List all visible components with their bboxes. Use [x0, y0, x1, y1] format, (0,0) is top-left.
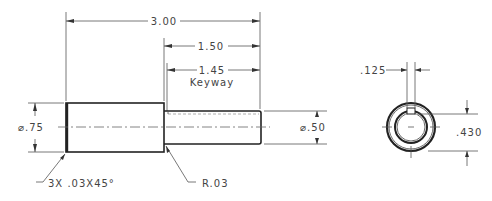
arrowhead-icon	[315, 111, 319, 117]
arrowhead-icon	[465, 108, 469, 114]
fillet-leader	[166, 146, 196, 182]
arrowhead-icon	[401, 68, 407, 72]
arrowhead-icon	[33, 144, 37, 152]
dim-keyway-width: .125	[360, 65, 386, 76]
arrowhead-icon	[66, 19, 74, 23]
arrowhead-icon	[315, 138, 319, 144]
dim-small-length: 1.50	[198, 41, 224, 52]
dim-small-diameter: ⌀.50	[300, 122, 326, 133]
arrowhead-icon	[33, 103, 37, 111]
arrowhead-icon	[252, 19, 260, 23]
fillet-note: R.03	[202, 178, 229, 189]
small-diameter-section	[164, 111, 261, 144]
arrowhead-icon	[167, 68, 175, 72]
side-view: 3.00 1.50 1.45 Keyway ⌀.75	[18, 12, 327, 189]
large-diameter-section	[66, 103, 164, 152]
arrowhead-icon	[252, 44, 260, 48]
arrowhead-icon	[465, 151, 469, 157]
dim-large-diameter: ⌀.75	[18, 122, 44, 133]
keyway-label: Keyway	[190, 77, 234, 88]
arrowhead-icon	[164, 44, 172, 48]
dim-keyway-length: 1.45	[199, 65, 225, 76]
arrowhead-icon	[415, 68, 421, 72]
arrowhead-icon	[252, 68, 260, 72]
technical-drawing: 3.00 1.50 1.45 Keyway ⌀.75	[0, 0, 492, 201]
end-view: .125 .430	[360, 62, 482, 166]
dim-keyway-depth: .430	[456, 127, 482, 138]
keyway-slot	[407, 108, 415, 114]
chamfer-note: 3X .03X45°	[48, 178, 115, 189]
dim-overall-length: 3.00	[151, 16, 177, 27]
